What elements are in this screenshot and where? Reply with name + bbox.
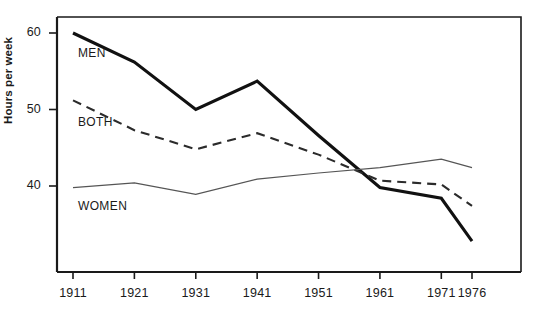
y-axis-title: Hours per week (2, 4, 14, 124)
series-label-men: MEN (78, 46, 106, 60)
x-tick-label: 1961 (356, 286, 404, 300)
y-tick-label: 40 (15, 178, 41, 192)
x-tick-label: 1941 (233, 286, 281, 300)
data-series-group (73, 33, 472, 241)
series-label-both: BOTH (78, 115, 113, 129)
x-tick-label: 1931 (172, 286, 220, 300)
series-label-women: WOMEN (78, 199, 127, 213)
series-line-men (73, 33, 472, 241)
x-tick-label: 1951 (295, 286, 343, 300)
chart-figure: Hours per week 605040 191119211931194119… (0, 0, 543, 319)
y-axis-ticks (49, 33, 57, 186)
y-tick-label: 60 (15, 25, 41, 39)
x-tick-label: 1911 (49, 286, 97, 300)
y-tick-label: 50 (15, 102, 41, 116)
series-line-women (73, 159, 472, 194)
x-tick-label: 1976 (448, 286, 496, 300)
x-tick-label: 1921 (110, 286, 158, 300)
series-line-both (73, 100, 472, 206)
